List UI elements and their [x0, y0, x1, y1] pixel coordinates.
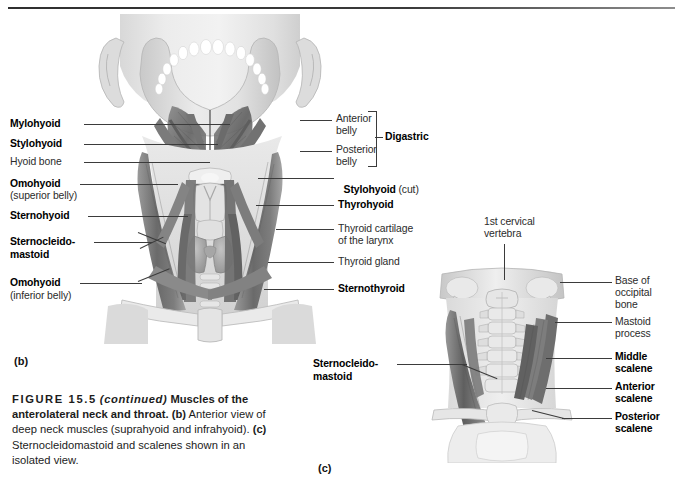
top-divider-rule — [8, 7, 675, 9]
label-thyroid-cartilage: Thyroid cartilage — [338, 223, 413, 235]
caption-part-c-text: Sternocleidomastoid and scalenes shown i… — [12, 439, 245, 451]
leader-thyrohyoid — [256, 205, 334, 206]
label-sternohyoid: Sternohyoid — [10, 210, 70, 222]
panel-b-illustration — [86, 14, 334, 344]
label-omohyoid-superior: Omohyoid — [10, 178, 61, 190]
label-stylohyoid-cut-suffix: (cut) — [396, 184, 419, 195]
digastric-bracket-stem — [375, 137, 383, 138]
label-middle-scalene-line2: scalene — [615, 363, 652, 375]
caption-part-b-tag: (b) — [172, 408, 186, 420]
label-mastoid-process-line2: process — [615, 328, 651, 340]
label-sternocleidomastoid-b: Sternocleido- — [10, 236, 75, 248]
label-omohyoid-superior-sub: (superior belly) — [10, 190, 77, 202]
digastric-bracket — [368, 111, 377, 167]
label-hyoid-bone: Hyoid bone — [10, 156, 62, 168]
label-omohyoid-inferior: Omohyoid — [10, 277, 61, 289]
label-middle-scalene: Middle — [615, 351, 647, 363]
caption-part-c-tag: (c) — [253, 423, 267, 435]
figure-continued: (continued) — [100, 393, 168, 405]
leader-posterior-scalene — [562, 418, 612, 419]
label-anterior-belly: Anterior — [336, 113, 372, 125]
label-anterior-belly-line2: belly — [336, 125, 357, 137]
leader-middle-scalene — [546, 358, 612, 359]
label-stylohyoid-cut: Stylohyoid (cut) — [338, 172, 419, 197]
caption-body-line5: isolated view. — [12, 454, 79, 466]
label-posterior-belly-line2: belly — [336, 156, 357, 168]
label-sternocleidomastoid-c-line2: mastoid — [313, 371, 352, 383]
label-posterior-scalene-line2: scalene — [615, 423, 652, 435]
panel-c-tag: (c) — [318, 462, 331, 474]
leader-omohyoid-inferior — [80, 283, 142, 284]
label-sternocleidomastoid-c: Sternocleido- — [313, 358, 378, 370]
label-base-occipital-bone-line2: occipital — [615, 287, 652, 299]
label-thyroid-gland: Thyroid gland — [338, 256, 400, 268]
label-thyroid-cartilage-line2: of the larynx — [338, 235, 393, 247]
leader-mylohyoid — [84, 124, 230, 125]
leader-anterior-scalene — [546, 388, 612, 389]
leader-omohyoid-superior — [80, 184, 178, 185]
label-first-cervical-vertebra: 1st cervical — [484, 216, 535, 228]
panel-c-illustration — [418, 258, 586, 463]
leader-first-cervical-vertebra — [504, 244, 505, 280]
leader-sternocleidomastoid-b — [94, 242, 152, 243]
label-digastric: Digastric — [385, 131, 429, 143]
figure-title-line1: Muscles of the — [170, 393, 248, 405]
leader-hyoid-bone — [84, 162, 210, 163]
label-sternothyroid: Sternothyroid — [338, 283, 405, 295]
leader-anterior-belly — [300, 120, 332, 121]
leader-stylohyoid — [84, 144, 218, 145]
leader-thyroid-gland — [268, 262, 334, 263]
leader-stylohyoid-cut — [258, 178, 334, 179]
leader-sternothyroid — [264, 289, 334, 290]
figure-caption: FIGURE 15.5 (continued) Muscles of the a… — [12, 392, 280, 468]
label-anterior-scalene-line2: scalene — [615, 393, 652, 405]
caption-part-b-text: Anterior view of — [186, 408, 266, 420]
label-anterior-scalene: Anterior — [615, 381, 655, 393]
leader-sternohyoid — [88, 216, 188, 217]
label-stylohyoid-cut-text: Stylohyoid — [344, 184, 396, 195]
leader-thyroid-cartilage — [276, 229, 334, 230]
label-omohyoid-inferior-sub: (inferior belly) — [10, 290, 71, 302]
label-thyrohyoid: Thyrohyoid — [338, 199, 394, 211]
label-first-cervical-vertebra-line2: vertebra — [484, 228, 521, 240]
figure-number: FIGURE 15.5 — [12, 393, 97, 405]
leader-mastoid-process — [555, 322, 612, 323]
leader-sternocleidomastoid-c — [397, 364, 467, 365]
label-mylohyoid: Mylohyoid — [10, 118, 60, 130]
figure-title-line2: anterolateral neck and throat. — [12, 408, 169, 420]
leader-posterior-belly — [300, 151, 332, 152]
label-sternocleidomastoid-b-line2: mastoid — [10, 249, 49, 261]
leader-base-occipital-bone — [560, 282, 612, 283]
label-mastoid-process: Mastoid — [615, 316, 651, 328]
label-base-occipital-bone-line3: bone — [615, 299, 638, 311]
label-base-occipital-bone: Base of — [615, 275, 650, 287]
label-posterior-scalene: Posterior — [615, 411, 660, 423]
caption-body-line3: deep neck muscles (suprahyoid and infrah… — [12, 423, 250, 435]
label-stylohyoid: Stylohyoid — [10, 138, 62, 150]
panel-b-tag: (b) — [14, 355, 28, 367]
